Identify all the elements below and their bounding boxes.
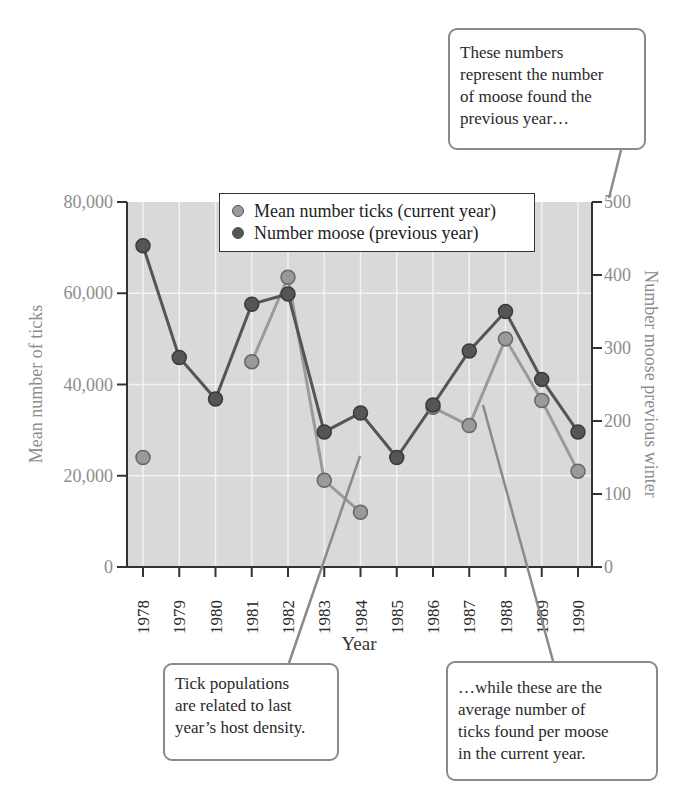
legend-item-ticks: Mean number ticks (current year) (232, 200, 534, 222)
ticks-data-point (281, 270, 295, 284)
ticks-data-point (499, 332, 513, 346)
moose-data-point (535, 372, 549, 386)
x-tick-label: 1990 (569, 600, 588, 634)
y-tick-label-right: 500 (604, 192, 631, 212)
moose-data-point (172, 350, 186, 364)
callout-line: represent the number (460, 64, 634, 86)
y-axis-label-right: Number moose previous winter (641, 270, 661, 497)
y-tick-label-right: 0 (604, 557, 613, 577)
moose-data-point (426, 398, 440, 412)
moose-data-point (354, 406, 368, 420)
ticks-data-point (245, 355, 259, 369)
moose-data-point (390, 451, 404, 465)
legend-label-ticks: Mean number ticks (current year) (254, 200, 496, 222)
ticks-data-point (354, 505, 368, 519)
moose-data-point (462, 344, 476, 358)
callout-line: average number of (458, 699, 646, 721)
y-tick-label-left: 40,000 (64, 375, 114, 395)
y-tick-label-right: 400 (604, 265, 631, 285)
ticks-data-point (136, 451, 150, 465)
ticks-data-point (317, 473, 331, 487)
callout-line: Tick populations (175, 673, 327, 695)
x-tick-label: 1979 (170, 600, 189, 634)
y-axis-label-left: Mean number of ticks (26, 305, 46, 463)
y-tick-label-right: 200 (604, 411, 631, 431)
callout-host-density: Tick populations are related to last yea… (163, 663, 339, 761)
callout-line: are related to last (175, 695, 327, 717)
x-tick-label: 1981 (243, 600, 262, 634)
y-tick-label-left: 80,000 (64, 192, 114, 212)
x-tick-label: 1983 (315, 600, 334, 634)
y-tick-label-left: 0 (104, 557, 113, 577)
x-axis-label: Year (341, 633, 377, 654)
moose-data-point (571, 425, 585, 439)
legend-marker-moose-icon (232, 227, 244, 239)
chart-legend: Mean number ticks (current year) Number … (219, 193, 535, 252)
x-tick-label: 1986 (424, 600, 443, 634)
callout-moose-previous-year: These numbers represent the number of mo… (448, 28, 646, 150)
x-tick-label: 1984 (352, 600, 371, 635)
y-tick-label-left: 60,000 (64, 283, 114, 303)
callout-line: of moose found the (460, 86, 634, 108)
callout-ticks-per-moose: …while these are the average number of t… (446, 661, 658, 781)
callout-line: These numbers (460, 42, 634, 64)
legend-item-moose: Number moose (previous year) (232, 222, 534, 244)
moose-data-point (281, 287, 295, 301)
x-tick-label: 1978 (134, 600, 153, 634)
ticks-data-point (535, 393, 549, 407)
x-tick-label: 1987 (460, 600, 479, 635)
moose-data-point (499, 305, 513, 319)
y-tick-label-right: 100 (604, 484, 631, 504)
ticks-data-point (462, 419, 476, 433)
x-tick-label: 1982 (279, 600, 298, 634)
callout-line: in the current year. (458, 743, 646, 765)
y-tick-label-left: 20,000 (64, 466, 114, 486)
moose-data-point (209, 392, 223, 406)
callout-line: previous year… (460, 108, 634, 130)
moose-data-point (245, 297, 259, 311)
legend-label-moose: Number moose (previous year) (254, 222, 478, 244)
x-tick-label: 1985 (388, 600, 407, 634)
moose-data-point (136, 239, 150, 253)
callout-line: …while these are the (458, 677, 646, 699)
moose-data-point (317, 425, 331, 439)
legend-marker-ticks-icon (232, 205, 244, 217)
callout-leader-line (609, 150, 621, 198)
callout-line: year’s host density. (175, 717, 327, 739)
callout-line: ticks found per moose (458, 721, 646, 743)
x-tick-label: 1980 (207, 600, 226, 634)
ticks-data-point (571, 464, 585, 478)
x-tick-label: 1988 (497, 600, 516, 634)
y-tick-label-right: 300 (604, 338, 631, 358)
